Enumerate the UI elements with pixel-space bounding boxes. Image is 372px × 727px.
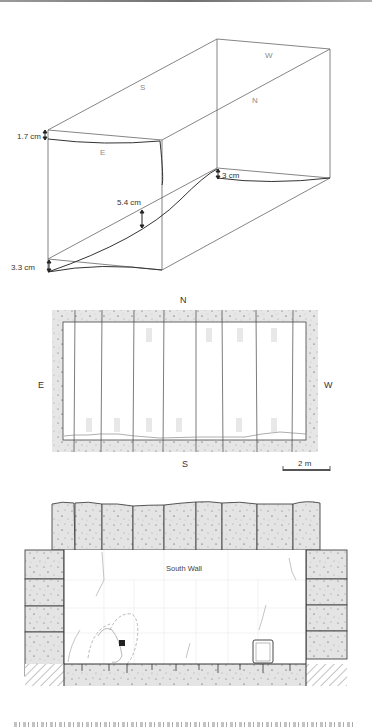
south-face-label: S xyxy=(140,83,145,92)
north-face-label: N xyxy=(252,96,258,105)
figure-caption-clipped xyxy=(14,719,354,727)
plan-view-diagram: N E W xyxy=(0,280,372,460)
roof-blocks xyxy=(52,502,320,550)
measurement-east-top: 1.7 cm xyxy=(17,132,41,141)
plan-chamber-floor xyxy=(63,322,306,440)
compass-south: S xyxy=(182,459,188,469)
measurement-west-bottom: 3 cm xyxy=(222,171,240,180)
east-face-label: E xyxy=(100,148,105,157)
right-wall-course-1 xyxy=(306,550,347,579)
right-wall-course-3 xyxy=(306,605,347,631)
right-hatched-ground xyxy=(306,664,347,686)
isometric-chamber-diagram: S W N E 1.7 cm 5.4 cm 3 cm 3.3 cm xyxy=(0,0,372,280)
south-wall-title: South Wall xyxy=(166,564,202,573)
south-wall-elevation: South Wall xyxy=(0,480,372,715)
west-face-label: W xyxy=(265,51,273,60)
scale-bar-label: 2 m xyxy=(298,459,312,468)
compass-west: W xyxy=(324,380,333,390)
left-hatched-ground xyxy=(25,664,64,686)
left-wall-course-1 xyxy=(25,550,64,579)
left-wall-course-2 xyxy=(25,579,64,606)
plan-footer: S 2 m xyxy=(0,455,372,480)
left-wall-course-3 xyxy=(25,606,64,632)
right-wall-course-4 xyxy=(306,631,347,659)
measurement-middle: 5.4 cm xyxy=(117,198,141,207)
floor-slab xyxy=(64,664,306,686)
right-wall-course-2 xyxy=(306,579,347,605)
measurement-east-bottom: 3.3 cm xyxy=(11,263,35,272)
caption-glyph-tops xyxy=(14,722,354,727)
scale-bar xyxy=(283,469,330,471)
compass-north: N xyxy=(180,295,187,305)
dark-object-marker xyxy=(119,640,125,646)
compass-east: E xyxy=(38,380,44,390)
